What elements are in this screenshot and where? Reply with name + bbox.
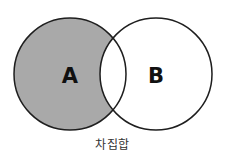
set-b-label: B [148, 64, 164, 88]
venn-diagram: A B [0, 0, 225, 156]
diagram-caption: 차집합 [0, 135, 225, 152]
set-a-label: A [62, 64, 79, 88]
